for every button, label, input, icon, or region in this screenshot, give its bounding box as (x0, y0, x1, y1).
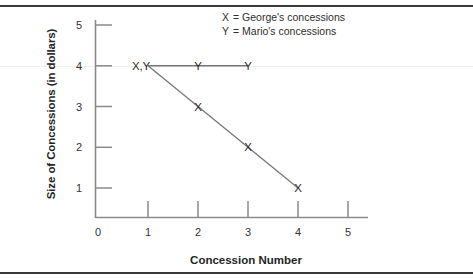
y-axis-title: Size of Concessions (in dollars) (45, 19, 57, 209)
legend-text-x: = George's concessions (233, 11, 345, 23)
page-rule-top (0, 5, 473, 7)
legend-key-y: Y (222, 24, 233, 38)
data-marker-xy-1-4: X,Y (132, 60, 150, 72)
data-marker-x-3-2: X (244, 141, 251, 153)
legend-row-x: X= George's concessions (222, 10, 345, 24)
data-marker-x-2-3: X (194, 101, 201, 113)
worksheet-page: 5 4 3 2 1 0 1 2 3 4 5 Size of Concession… (0, 0, 473, 278)
page-rule-bottom (0, 272, 473, 274)
x-tick-label-2: 2 (187, 226, 209, 238)
x-tick-label-0: 0 (87, 226, 109, 238)
y-tick-label-2: 2 (64, 141, 82, 153)
x-axis-title: Concession Number (96, 254, 396, 266)
data-marker-y-3-4: Y (244, 60, 251, 72)
legend-key-x: X (222, 10, 233, 24)
x-axis-ticks (148, 201, 348, 218)
data-marker-x-4-1: X (294, 182, 301, 194)
y-tick-label-5: 5 (64, 19, 82, 31)
legend-text-y: = Mario's concessions (233, 25, 336, 37)
legend-row-y: Y= Mario's concessions (222, 24, 345, 38)
y-tick-label-1: 1 (64, 182, 82, 194)
y-axis-ticks (96, 25, 113, 188)
x-tick-label-3: 3 (237, 226, 259, 238)
y-tick-label-3: 3 (64, 101, 82, 113)
concessions-line-chart: 5 4 3 2 1 0 1 2 3 4 5 Size of Concession… (0, 8, 473, 270)
x-tick-label-1: 1 (137, 226, 159, 238)
x-tick-label-4: 4 (287, 226, 309, 238)
y-tick-label-4: 4 (64, 60, 82, 72)
x-tick-label-5: 5 (337, 226, 359, 238)
chart-legend: X= George's concessions Y= Mario's conce… (222, 10, 345, 38)
series-x-line (148, 66, 298, 188)
data-marker-y-2-4: Y (194, 60, 201, 72)
